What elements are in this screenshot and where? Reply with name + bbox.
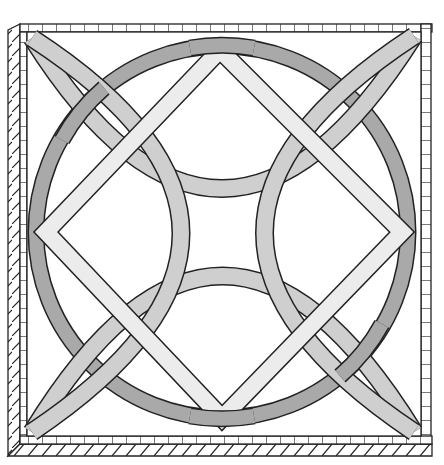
frame-inner-border <box>27 32 421 436</box>
frame-left-bevel <box>8 24 20 456</box>
celtic-knot-figure <box>0 0 444 465</box>
frame-right-ladder <box>421 24 431 444</box>
frame-left-ladder <box>20 32 27 444</box>
frame-top-ladder <box>20 24 432 32</box>
frame-bottom-bevel <box>8 444 432 456</box>
frame-bottom-ladder <box>20 436 432 444</box>
